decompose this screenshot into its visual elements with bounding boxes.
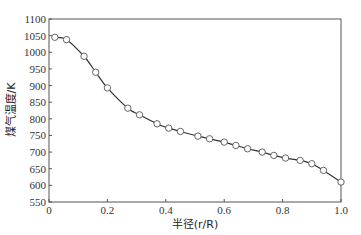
y-tick-label: 700 bbox=[30, 146, 47, 158]
x-tick-label: 1.0 bbox=[334, 204, 348, 216]
data-point-marker bbox=[195, 133, 201, 139]
data-point-marker bbox=[297, 157, 303, 163]
data-point-marker bbox=[259, 149, 265, 155]
data-point-marker bbox=[136, 112, 142, 118]
y-tick-label: 650 bbox=[30, 163, 47, 175]
y-tick-label: 800 bbox=[30, 113, 47, 125]
x-tick-label: 0.6 bbox=[217, 204, 231, 216]
y-axis: 550600650700750800850900950100010501100 bbox=[24, 13, 52, 208]
data-point-marker bbox=[309, 161, 315, 167]
gas-temperature-chart: 550600650700750800850900950100010501100 … bbox=[0, 0, 361, 235]
y-tick-label: 750 bbox=[30, 129, 47, 141]
y-tick-label: 850 bbox=[30, 96, 47, 108]
data-point-marker bbox=[93, 69, 99, 75]
data-point-markers bbox=[52, 34, 345, 185]
y-tick-label: 1050 bbox=[24, 30, 47, 42]
data-point-marker bbox=[104, 85, 110, 91]
x-axis-title: 半径(r/R) bbox=[172, 217, 218, 231]
y-axis-title: 煤气温度/K bbox=[4, 82, 18, 138]
data-point-marker bbox=[125, 105, 131, 111]
data-point-marker bbox=[282, 155, 288, 161]
data-point-marker bbox=[271, 152, 277, 158]
data-point-marker bbox=[233, 142, 239, 148]
data-point-marker bbox=[154, 121, 160, 127]
y-tick-label: 550 bbox=[30, 196, 47, 208]
y-tick-label: 1000 bbox=[24, 46, 47, 58]
plot-frame bbox=[49, 19, 341, 202]
data-point-marker bbox=[244, 146, 250, 152]
x-tick-label: 0 bbox=[46, 204, 52, 216]
data-point-marker bbox=[206, 136, 212, 142]
data-point-marker bbox=[81, 53, 87, 59]
plot-border bbox=[49, 19, 341, 202]
x-tick-label: 0.4 bbox=[159, 204, 173, 216]
data-point-marker bbox=[166, 125, 172, 131]
data-point-marker bbox=[221, 139, 227, 145]
data-point-marker bbox=[177, 128, 183, 134]
data-point-marker bbox=[63, 36, 69, 42]
y-tick-label: 900 bbox=[30, 80, 47, 92]
data-point-marker bbox=[52, 34, 58, 40]
data-point-marker bbox=[320, 167, 326, 173]
x-tick-label: 0.2 bbox=[101, 204, 115, 216]
y-tick-label: 950 bbox=[30, 63, 47, 75]
y-tick-label: 600 bbox=[30, 179, 47, 191]
x-tick-label: 0.8 bbox=[276, 204, 290, 216]
y-tick-label: 1100 bbox=[24, 13, 46, 25]
data-point-marker bbox=[338, 179, 344, 185]
